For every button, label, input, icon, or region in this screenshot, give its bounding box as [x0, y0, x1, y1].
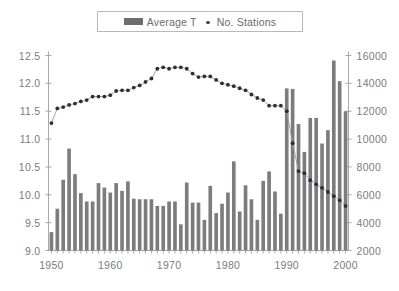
chart-container: Average T No. Stations 12.512.011.511.01…: [0, 0, 399, 291]
right-axis-tick-label: 8000: [357, 161, 382, 173]
right-axis-tick-label: 16000: [357, 50, 388, 62]
left-axis-tick-label: 9.0: [25, 245, 41, 257]
right-axis-tick-label: 4000: [357, 217, 382, 229]
left-axis-tick-label: 9.5: [25, 217, 41, 229]
x-axis-tick-label: 1950: [39, 259, 64, 271]
left-axis-tick-label: 11.5: [20, 105, 41, 117]
x-axis-tick-label: 1960: [98, 259, 123, 271]
left-axis-tick-label: 10.5: [19, 161, 41, 173]
right-axis-tick-label: 10000: [357, 133, 388, 145]
left-axis-tick-label: 11.0: [20, 133, 41, 145]
x-axis-tick-label: 1990: [274, 259, 299, 271]
right-axis-tick-label: 12000: [357, 105, 388, 117]
left-axis-tick-label: 12.0: [19, 77, 41, 89]
left-axis-tick-label: 10.0: [19, 189, 41, 201]
right-axis-tick-label: 2000: [357, 245, 382, 257]
x-axis-tick-label: 1980: [216, 259, 241, 271]
chart-plot: 12.512.011.511.010.510.09.59.01600014000…: [0, 0, 399, 291]
x-axis-tick-label: 1970: [157, 259, 182, 271]
right-axis-tick-label: 6000: [357, 189, 382, 201]
bar-series-average-t: [50, 61, 348, 251]
left-axis-tick-label: 12.5: [19, 50, 41, 62]
x-axis-tick-label: 2000: [333, 259, 358, 271]
right-axis-tick-label: 14000: [357, 77, 388, 89]
